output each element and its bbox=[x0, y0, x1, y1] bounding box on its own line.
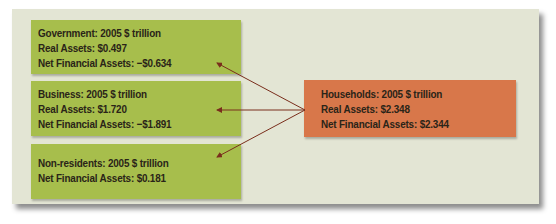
arrow-to-government bbox=[217, 63, 305, 110]
flow-arrows bbox=[0, 0, 556, 224]
arrow-to-non-residents bbox=[217, 110, 305, 157]
